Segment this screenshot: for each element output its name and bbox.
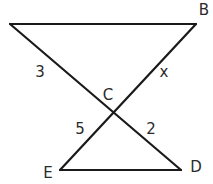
- length-label-ec: 5: [75, 120, 85, 138]
- segment-B-to-E: [60, 24, 196, 170]
- vertex-label-d: D: [190, 158, 202, 176]
- vertex-label-e: E: [43, 164, 52, 182]
- triangle-diagram: B C E D 3 x 5 2: [0, 0, 213, 184]
- vertex-label-c: C: [103, 86, 113, 104]
- segment-A-to-D: [10, 24, 181, 170]
- vertex-label-b: B: [199, 1, 209, 19]
- length-label-bc: x: [160, 63, 169, 81]
- length-label-ac: 3: [35, 63, 45, 81]
- length-label-cd: 2: [146, 120, 156, 138]
